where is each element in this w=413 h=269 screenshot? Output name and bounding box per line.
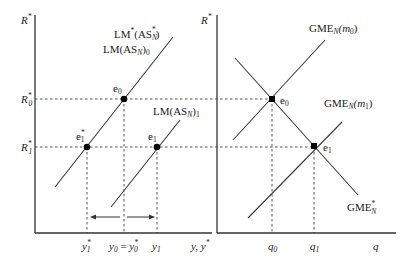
arrow-left-head [90,215,96,220]
label-lm-star: LM*(ASN*) [114,25,160,42]
label-e1-star: e*1 [76,128,85,144]
diagram-canvas: R* R* R*0 R*1 LM*(ASN*) LM(ASN)0 LM(ASN)… [0,0,413,269]
point-e1-left [154,144,161,151]
point-e0-right [269,96,275,102]
point-e1-star [84,144,91,151]
tick-y1-star: y*1 [81,238,91,254]
tick-q0: q0 [268,240,278,254]
gme-star-curve [235,58,358,195]
arrow-right-head [149,215,155,220]
label-e0-right: e0 [280,94,289,108]
tick-R1: R*1 [20,139,32,156]
tick-q1: q1 [310,240,319,254]
label-e1-right: e1 [323,141,332,155]
point-e1-right [311,143,317,149]
left-y-axis-label: R* [20,12,32,26]
lm1-curve [111,120,180,207]
gme-m1-curve [248,122,342,218]
right-x-axis-label: q [373,240,379,252]
gme-m0-curve [233,40,325,140]
label-e0-left: e0 [113,82,122,96]
label-gme-star: GME*N [347,199,377,216]
label-lm1: LM(ASN)1 [153,105,200,119]
tick-y0: y0 = y*0 [108,238,138,254]
label-gme-m1: GMEN(m1) [324,97,373,111]
label-lm0: LM(ASN)0 [103,43,150,57]
tick-y1: y1 [151,240,161,254]
right-y-axis-label: R* [200,12,212,26]
point-e0-left [121,96,128,103]
left-x-axis-label: y, y* [190,238,210,252]
label-gme-m0: GMEN(m0) [309,22,358,36]
label-e1-left: e1 [148,130,157,144]
tick-R0: R*0 [20,91,32,108]
